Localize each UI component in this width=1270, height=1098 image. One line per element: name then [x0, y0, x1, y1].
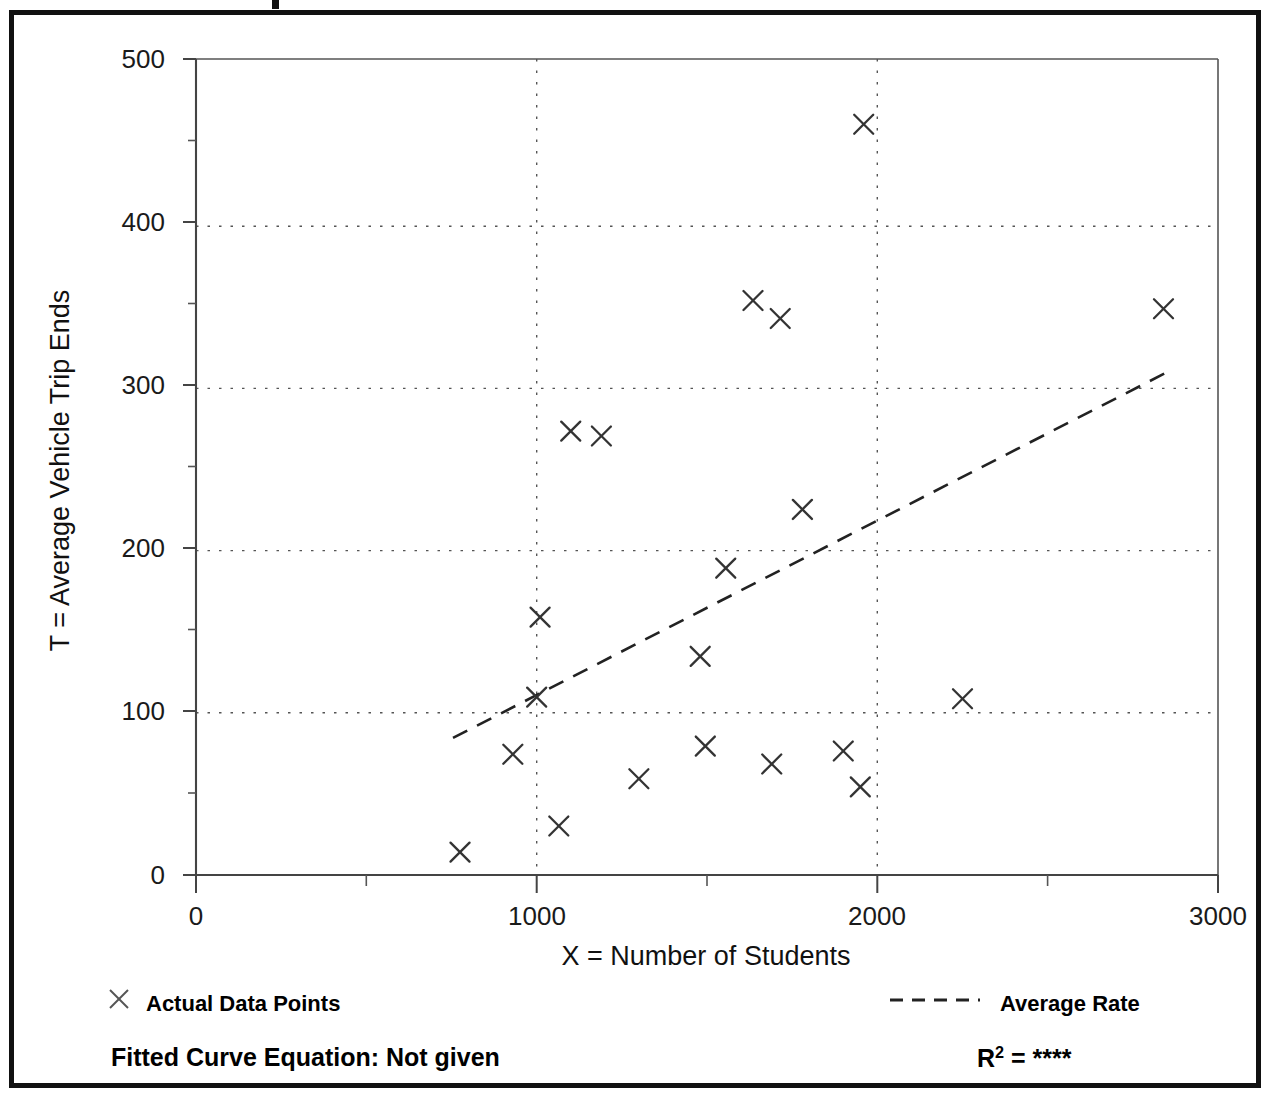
- r2-value: ****: [1033, 1044, 1072, 1072]
- x-tick-label-1000: 1000: [482, 901, 592, 932]
- y-tick-label-0: 0: [85, 860, 165, 891]
- y-axis-title: T = Average Vehicle Trip Ends: [45, 261, 76, 681]
- y-tick-label-100: 100: [85, 696, 165, 727]
- y-tick-label-300: 300: [85, 370, 165, 401]
- r2-prefix: R: [977, 1044, 995, 1072]
- x-tick-label-3000: 3000: [1163, 901, 1270, 932]
- fitted-curve-equation-text: Fitted Curve Equation: Not given: [111, 1043, 500, 1072]
- legend-label-actual-data-points: Actual Data Points: [146, 991, 340, 1017]
- x-axis-title: X = Number of Students: [406, 941, 1006, 972]
- scanned-page: 500 400 300 200 100 0 0 1000 2000 3000 T…: [0, 0, 1270, 1098]
- r2-superscript: 2: [995, 1043, 1004, 1061]
- y-tick-label-500: 500: [85, 44, 165, 75]
- r-squared-annotation: R2 = ****: [977, 1043, 1072, 1073]
- y-tick-label-200: 200: [85, 533, 165, 564]
- x-tick-label-2000: 2000: [822, 901, 932, 932]
- page-artifact-speck: [272, 0, 279, 9]
- legend-label-average-rate: Average Rate: [1000, 991, 1140, 1017]
- y-tick-label-400: 400: [85, 207, 165, 238]
- r2-equals: =: [1004, 1044, 1033, 1072]
- x-tick-label-0: 0: [141, 901, 251, 932]
